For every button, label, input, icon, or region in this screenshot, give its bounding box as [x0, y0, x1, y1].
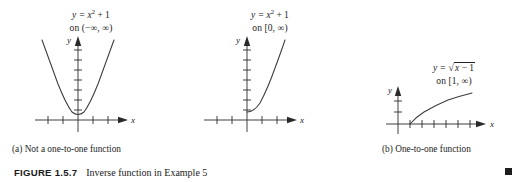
y-axis-label-c: y	[387, 85, 392, 95]
figure-caption-text: Inverse function in Example 5	[86, 167, 207, 178]
figure-container: y = x2 + 1 on (−∞, ∞)	[0, 0, 532, 182]
panel-a: y = x2 + 1 on (−∞, ∞)	[0, 0, 182, 162]
panel-b: y = x2 + 1 on [0, ∞)	[182, 0, 354, 162]
x-axis-arrow-c	[476, 121, 486, 127]
y-axis-label-b: y	[235, 35, 240, 45]
x-axis-label-a: x	[130, 115, 135, 125]
plot-a: x y	[0, 0, 182, 142]
plot-b: x y	[182, 0, 354, 142]
curve-b	[247, 40, 285, 112]
figure-caption: FIGURE 1.5.7Inverse function in Example …	[14, 164, 207, 179]
figure-number: FIGURE 1.5.7	[14, 167, 77, 178]
y-axis-arrow-a	[75, 36, 81, 46]
x-axis-label-b: x	[299, 115, 304, 125]
y-axis-arrow-c	[395, 86, 401, 96]
curve-c	[410, 93, 472, 124]
y-axis-label-a: y	[66, 35, 71, 45]
x-axis-arrow-b	[287, 117, 297, 123]
x-axis-label-c: x	[489, 119, 494, 129]
y-axis-arrow-b	[244, 36, 250, 46]
panel-c: y = √x − 1 on [1, ∞)	[354, 0, 532, 162]
end-of-example-marker	[505, 168, 512, 175]
subcaption-a: (a) Not a one-to-one function	[12, 143, 121, 155]
plot-c: x y	[354, 0, 532, 142]
x-axis-arrow-a	[118, 117, 128, 123]
